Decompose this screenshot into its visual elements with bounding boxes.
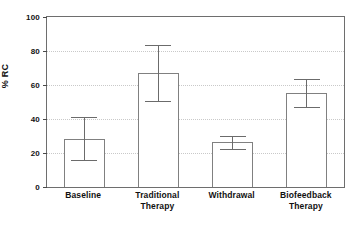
y-axis-tick (43, 187, 47, 188)
error-bar-cap-lower (294, 107, 320, 108)
x-axis-labels: BaselineTraditionalTherapyWithdrawalBiof… (46, 190, 345, 224)
error-bar (138, 45, 179, 187)
gridline (47, 51, 344, 52)
error-bar-stem (232, 136, 233, 149)
x-axis-label-line: Baseline (46, 190, 120, 201)
error-bar-cap-upper (145, 45, 171, 46)
y-axis-tick-label: 60 (31, 81, 40, 90)
y-axis-title: % RC (0, 46, 10, 106)
x-axis-label: Baseline (46, 190, 120, 201)
x-axis-label: TraditionalTherapy (120, 190, 194, 212)
y-axis-tick-label: 100 (26, 13, 40, 22)
error-bar-cap-upper (71, 117, 97, 118)
error-bar (64, 117, 105, 187)
bar-chart: % RC 020406080100 BaselineTraditionalThe… (0, 0, 360, 225)
y-axis-tick (43, 85, 47, 86)
y-axis-tick-label: 0 (35, 183, 40, 192)
error-bar-cap-lower (220, 149, 246, 150)
y-axis-tick-label: 80 (31, 47, 40, 56)
y-axis-tick (43, 17, 47, 18)
x-axis-label-line: Therapy (269, 201, 343, 212)
error-bar-cap-upper (220, 136, 246, 137)
plot-inner: 020406080100 (47, 17, 344, 187)
error-bar-stem (84, 117, 85, 160)
plot-area: 020406080100 (46, 16, 345, 188)
error-bar-stem (306, 79, 307, 107)
y-axis-tick (43, 153, 47, 154)
error-bar-cap-lower (71, 160, 97, 161)
error-bar (212, 136, 253, 187)
error-bar-cap-upper (294, 79, 320, 80)
error-bar-stem (158, 45, 159, 101)
x-axis-label-line: Therapy (120, 201, 194, 212)
y-axis-tick (43, 51, 47, 52)
x-axis-label-line: Traditional (120, 190, 194, 201)
y-axis-tick-label: 40 (31, 115, 40, 124)
y-axis-tick-label: 20 (31, 149, 40, 158)
error-bar (286, 79, 327, 187)
x-axis-label-line: Biofeedback (269, 190, 343, 201)
x-axis-label: BiofeedbackTherapy (269, 190, 343, 212)
x-axis-label: Withdrawal (195, 190, 269, 201)
error-bar-cap-lower (145, 101, 171, 102)
x-axis-label-line: Withdrawal (195, 190, 269, 201)
y-axis-tick (43, 119, 47, 120)
